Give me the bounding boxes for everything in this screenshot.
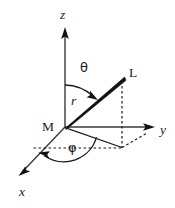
- theta-arc-group: [65, 85, 98, 100]
- point-label-m: M: [42, 119, 54, 134]
- quantity-label-r: r: [71, 93, 77, 108]
- spherical-coordinate-svg: z y x M L r θ φ: [0, 0, 175, 208]
- axis-label-z: z: [59, 7, 66, 22]
- theta-arc: [65, 85, 93, 96]
- x-axis-arrowhead-icon: [19, 166, 31, 176]
- axis-z: [61, 27, 69, 127]
- point-label-l: L: [129, 65, 137, 80]
- quantity-label-phi: φ: [68, 140, 77, 155]
- quantity-label-theta: θ: [80, 60, 88, 75]
- axis-label-y: y: [158, 122, 166, 137]
- axis-x: [19, 127, 66, 176]
- axis-label-x: x: [18, 184, 25, 199]
- phi-arc-arrowhead-icon: [39, 151, 50, 159]
- spherical-coordinate-figure: z y x M L r θ φ: [0, 0, 175, 208]
- axis-y: [65, 123, 155, 131]
- plane-diagonal-guide: [122, 133, 147, 148]
